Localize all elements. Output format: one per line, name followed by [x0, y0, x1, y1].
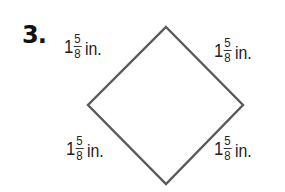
fraction-numerator: 5 — [75, 135, 83, 148]
fraction-numerator: 5 — [223, 135, 231, 148]
label-unit: in. — [235, 136, 252, 160]
label-fraction: 5 8 — [223, 37, 231, 64]
label-fraction: 5 8 — [73, 33, 81, 60]
label-unit: in. — [235, 38, 252, 62]
label-unit: in. — [85, 34, 102, 58]
side-label-bottom-left: 1 5 8 in. — [66, 133, 104, 163]
side-label-top-left: 1 5 8 in. — [64, 31, 102, 61]
label-whole: 1 — [214, 139, 223, 158]
label-fraction: 5 8 — [75, 135, 83, 162]
fraction-denominator: 8 — [224, 149, 230, 162]
fraction-denominator: 8 — [224, 51, 230, 64]
fraction-numerator: 5 — [73, 33, 81, 46]
label-whole: 1 — [214, 41, 223, 60]
fraction-denominator: 8 — [74, 47, 80, 60]
label-whole: 1 — [66, 139, 75, 158]
fraction-numerator: 5 — [223, 37, 231, 50]
label-unit: in. — [87, 136, 104, 160]
fraction-denominator: 8 — [76, 149, 82, 162]
label-whole: 1 — [64, 37, 73, 56]
rhombus-figure — [0, 0, 285, 192]
label-fraction: 5 8 — [223, 135, 231, 162]
side-label-top-right: 1 5 8 in. — [214, 35, 252, 65]
side-label-bottom-right: 1 5 8 in. — [214, 133, 252, 163]
